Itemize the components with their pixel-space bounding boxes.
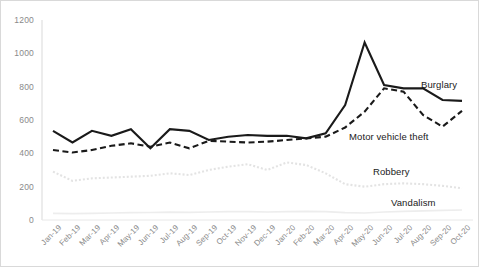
series-label-vandalism: Vandalism [391,197,436,208]
crime-trend-line-chart: 020040060080010001200 Jan-19Feb-19Mar-19… [0,0,479,267]
series-line-motor-vehicle-theft [53,88,462,152]
series-line-vandalism [53,210,462,214]
series-label-robbery: Robbery [373,166,410,177]
y-tick-label: 800 [6,82,34,92]
y-tick-label: 1200 [6,15,34,25]
y-tick-label: 600 [6,115,34,125]
series-label-burglary: Burglary [421,79,457,90]
series-label-motor-vehicle-theft: Motor vehicle theft [349,131,429,142]
chart-axes [42,20,473,220]
y-tick-label: 200 [6,182,34,192]
y-tick-label: 0 [6,215,34,225]
y-tick-label: 400 [6,148,34,158]
y-tick-label: 1000 [6,48,34,58]
chart-series-group [53,43,462,214]
